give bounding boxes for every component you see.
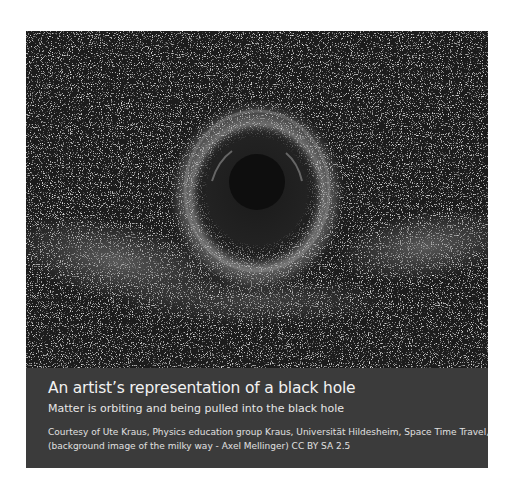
caption-title: An artist’s representation of a black ho… xyxy=(48,378,488,398)
caption-credit-line-1: Courtesy of Ute Kraus, Physics education… xyxy=(48,426,488,439)
image-caption: An artist’s representation of a black ho… xyxy=(26,368,488,468)
figure: An artist’s representation of a black ho… xyxy=(26,31,488,468)
caption-subtitle: Matter is orbiting and being pulled into… xyxy=(48,401,488,417)
caption-credit-line-2: (background image of the milky way - Axe… xyxy=(48,440,488,453)
black-hole-image xyxy=(26,31,488,368)
